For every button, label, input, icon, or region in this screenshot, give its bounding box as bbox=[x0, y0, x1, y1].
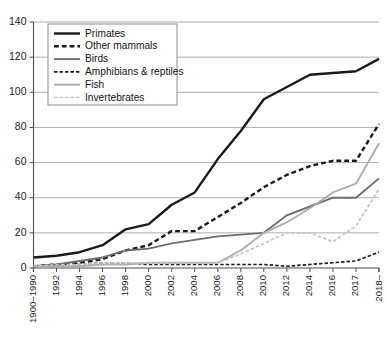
x-tick-labels: 1900–19901992199419961998200020022004200… bbox=[27, 274, 384, 323]
x-tick-label: 1900–1990 bbox=[27, 275, 38, 323]
legend-label: Invertebrates bbox=[85, 92, 144, 103]
chart-container: 020406080100120140 1900–1990199219941996… bbox=[0, 0, 388, 338]
legend-label: Fish bbox=[85, 79, 104, 90]
y-tick-label: 60 bbox=[15, 155, 27, 167]
y-tick-label: 140 bbox=[9, 15, 27, 27]
x-axis bbox=[34, 268, 380, 272]
x-tick-label: 2004 bbox=[188, 274, 199, 296]
series-line-other-mammals bbox=[34, 124, 380, 266]
y-tick-label: 100 bbox=[9, 85, 27, 97]
x-tick-label: 2012 bbox=[280, 275, 291, 296]
x-tick-label: 2017 bbox=[349, 275, 360, 296]
x-tick-label: 2018– bbox=[373, 274, 384, 301]
y-tick-labels: 020406080100120140 bbox=[9, 15, 27, 273]
chart-legend: PrimatesOther mammalsBirdsAmphibians & r… bbox=[48, 24, 184, 105]
legend-label: Other mammals bbox=[85, 40, 157, 51]
y-tick-label: 80 bbox=[15, 120, 27, 132]
line-chart: 020406080100120140 1900–1990199219941996… bbox=[0, 0, 388, 338]
y-tick-label: 40 bbox=[15, 190, 27, 202]
x-tick-label: 1994 bbox=[73, 274, 84, 296]
x-tick-label: 2010 bbox=[257, 275, 268, 296]
legend-label: Primates bbox=[85, 28, 125, 39]
legend-label: Amphibians & reptiles bbox=[85, 66, 184, 77]
y-tick-label: 120 bbox=[9, 50, 27, 62]
x-tick-label: 1996 bbox=[96, 275, 107, 296]
series-line-birds bbox=[34, 178, 380, 266]
x-tick-label: 2008 bbox=[234, 275, 245, 296]
x-tick-label: 2000 bbox=[142, 275, 153, 296]
legend-label: Birds bbox=[85, 53, 108, 64]
x-tick-label: 2016 bbox=[326, 275, 337, 296]
x-tick-label: 2006 bbox=[211, 275, 222, 296]
x-tick-label: 2002 bbox=[165, 275, 176, 296]
y-tick-label: 20 bbox=[15, 226, 27, 238]
series-line-fish bbox=[34, 143, 380, 266]
x-tick-label: 1998 bbox=[119, 275, 130, 296]
y-tick-label: 0 bbox=[21, 261, 27, 273]
x-tick-label: 1992 bbox=[50, 275, 61, 296]
x-tick-label: 2014 bbox=[303, 274, 314, 296]
y-axis bbox=[30, 22, 34, 268]
